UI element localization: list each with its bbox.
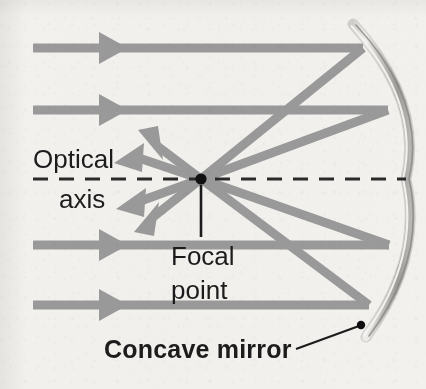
ray-arrowhead [99, 229, 128, 261]
focal-point-label-line1: Focal [171, 241, 235, 271]
ray-arrowhead [99, 32, 128, 64]
incoming-ray-1 [33, 32, 363, 64]
concave-mirror-leader [296, 321, 365, 349]
concave-mirror-label: Concave mirror [104, 335, 292, 363]
labels-group: Optical axis Focal point Concave mirror [33, 144, 292, 363]
ray-arrowhead [99, 94, 128, 126]
leader-endpoint-dot [357, 321, 365, 329]
concave-mirror-figure: Optical axis Focal point Concave mirror [0, 0, 426, 389]
ray-arrowhead [116, 188, 146, 217]
focal-point-label-line2: point [171, 275, 228, 305]
reflected-rays-group [114, 48, 389, 305]
ray-diagram-canvas: Optical axis Focal point Concave mirror [0, 0, 426, 389]
optical-axis-label-line2: axis [59, 184, 105, 214]
focal-point-dot [195, 173, 206, 184]
ray-arrowhead [114, 143, 144, 172]
incoming-ray-2 [33, 94, 388, 126]
optical-axis-label-line1: Optical [33, 144, 114, 174]
reflected-ray-1 [134, 48, 363, 236]
ray-arrowhead [99, 289, 128, 321]
